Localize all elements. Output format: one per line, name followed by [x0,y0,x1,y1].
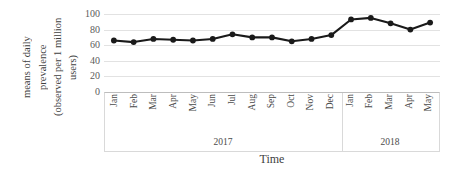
month-label-text: Mar [385,94,395,110]
month-label: May [184,93,204,131]
plot-area [104,14,440,92]
data-point-marker [427,20,433,26]
month-label: Jun [203,93,223,131]
y-axis-tick-label: 60 [74,40,100,50]
month-label-text: May [424,94,434,111]
month-label-text: May [189,94,199,111]
year-divider [342,93,343,152]
x-axis-title: Time [104,152,440,167]
data-point-marker [269,35,275,41]
data-point-marker [230,31,236,37]
month-label: Apr [164,93,184,131]
data-point-marker [111,38,117,44]
data-point-marker [328,32,334,38]
year-group-labels: 20172018 [105,133,439,151]
data-point-marker [190,38,196,44]
month-label-text: Feb [365,94,375,108]
month-label-text: Jul [228,94,238,105]
month-label-text: Apr [405,94,415,109]
month-label-text: Sep [267,94,277,108]
month-label-text: Nov [306,94,316,110]
month-label: Jul [223,93,243,131]
data-point-marker [210,36,216,42]
y-axis-title: means of daily prevalence (observed per … [10,4,78,130]
month-label-text: Jan [110,94,120,107]
category-axis: JanFebMarAprMayJunJulAugSepOctNovDecJanF… [104,92,440,152]
data-point-marker [348,17,354,23]
month-label: Jan [341,93,361,131]
month-label: Oct [282,93,302,131]
month-label: Mar [144,93,164,131]
data-point-marker [407,27,413,33]
month-label: Aug [242,93,262,131]
month-label-text: Aug [248,94,258,110]
year-label: 2017 [105,133,341,151]
data-point-marker [249,35,255,41]
month-label: Dec [321,93,341,131]
month-label: Apr [400,93,420,131]
data-point-marker [170,37,176,43]
data-point-marker [309,36,315,42]
month-label: Mar [380,93,400,131]
month-label-text: Feb [130,94,140,108]
series-line [104,14,440,92]
month-label-text: Apr [169,94,179,109]
y-axis-tick-label: 100 [74,9,100,19]
data-point-marker [151,36,157,42]
data-point-marker [368,15,374,21]
month-label-text: Jun [208,94,218,107]
y-axis-tick-label: 20 [74,71,100,81]
month-label-text: Jan [346,94,356,107]
month-label: Feb [360,93,380,131]
month-label: May [419,93,439,131]
line-chart: means of daily prevalence (observed per … [0,0,451,177]
month-label: Nov [301,93,321,131]
month-label: Feb [125,93,145,131]
data-point-marker [388,20,394,26]
month-label-text: Oct [287,94,297,108]
year-label: 2018 [341,133,439,151]
y-axis-tick-labels: 100806040200 [74,0,100,100]
data-point-marker [289,38,295,44]
month-label: Jan [105,93,125,131]
y-axis-tick-label: 40 [74,56,100,66]
month-label-text: Mar [149,94,159,110]
month-tick-labels: JanFebMarAprMayJunJulAugSepOctNovDecJanF… [105,93,439,131]
y-axis-tick-label: 80 [74,25,100,35]
y-axis-tick-label: 0 [74,87,100,97]
data-point-marker [131,39,137,45]
month-label: Sep [262,93,282,131]
month-label-text: Dec [326,94,336,109]
